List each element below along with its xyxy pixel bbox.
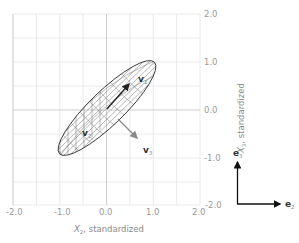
y-axis-label: X3, standardized: [236, 83, 247, 154]
v3-label: v3: [143, 145, 153, 156]
covariance-ellipse: [10, 10, 200, 190]
x-tick-labels: -2.0 -1.0 0.0 1.0 2.0: [6, 207, 206, 217]
svg-text:1.0: 1.0: [204, 57, 218, 67]
svg-text:0.0: 0.0: [99, 207, 113, 217]
svg-text:1.0: 1.0: [146, 207, 160, 217]
svg-text:-1.0: -1.0: [54, 207, 71, 217]
svg-text:2.0: 2.0: [204, 9, 218, 19]
basis-vectors: e3 e2: [233, 148, 295, 210]
svg-text:-2.0: -2.0: [205, 200, 222, 210]
e2-label: e2: [285, 199, 295, 210]
v1-arrow: [107, 84, 129, 109]
svg-text:0.0: 0.0: [204, 105, 218, 115]
v3-arrow: [118, 119, 137, 138]
svg-text:-2.0: -2.0: [6, 207, 23, 217]
svg-text:-1.0: -1.0: [204, 153, 221, 163]
y-tick-labels: 2.0 1.0 0.0 -1.0 -2.0: [204, 9, 222, 210]
zero-axes: [13, 14, 200, 205]
x-axis-label: X2, standardized: [73, 224, 144, 235]
pca-ellipse-diagram: v1 v2 v3 -2.0 -1.0 0.0 1.0 2.0 2.0 1.0 0…: [0, 0, 299, 243]
v2-label: v2: [82, 128, 91, 139]
svg-text:2.0: 2.0: [192, 207, 206, 217]
